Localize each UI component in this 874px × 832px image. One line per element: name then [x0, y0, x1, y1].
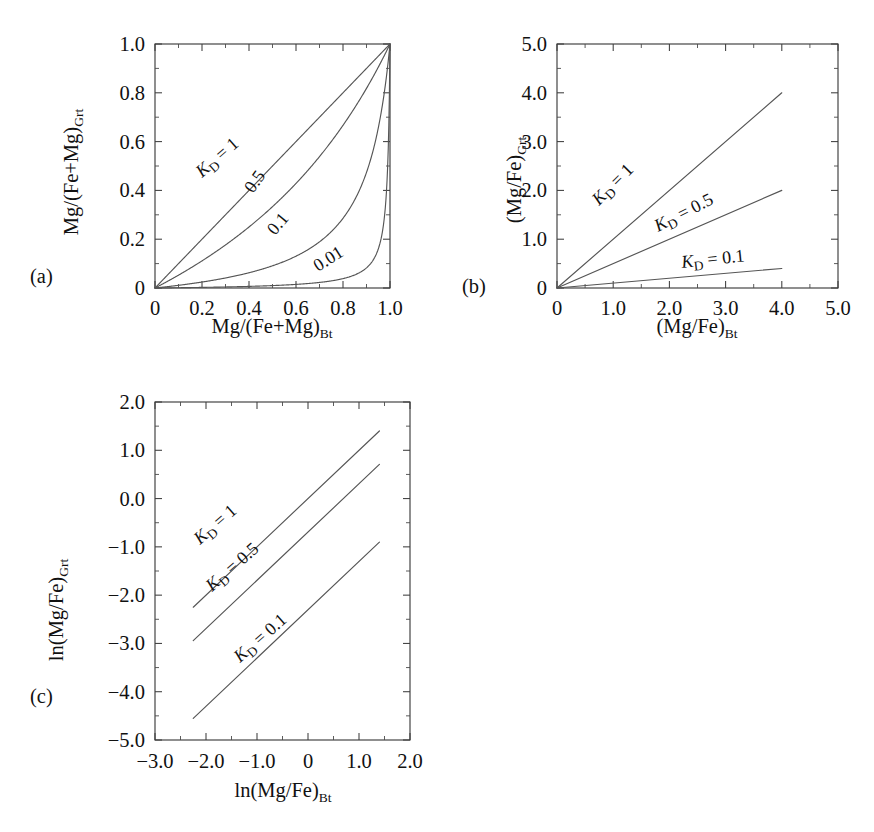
caption-strip — [0, 806, 874, 832]
y-tick-label: 0 — [135, 277, 145, 299]
line-kd-0_5 — [557, 190, 782, 288]
y-tick-label: 0.2 — [119, 228, 145, 250]
curve-kd-1 — [155, 44, 390, 288]
x-tick-label: 0 — [552, 297, 562, 319]
y-tick-label: −1.0 — [108, 536, 145, 558]
x-tick-label: −1.0 — [238, 750, 275, 772]
panel-b-letter: (b) — [462, 275, 486, 298]
panel-a-curves — [155, 44, 390, 288]
y-tick-label: 5.0 — [521, 33, 547, 55]
x-tick-label: 1.0 — [346, 750, 372, 772]
panel-c-x-axis-title: ln(Mg/Fe)Bt — [234, 779, 331, 805]
x-tick-label: 2.0 — [397, 750, 423, 772]
x-tick-label: 5.0 — [825, 297, 851, 319]
y-tick-label: −2.0 — [108, 584, 145, 606]
y-tick-label: −5.0 — [108, 729, 145, 751]
x-tick-label: 0 — [150, 297, 160, 319]
curve-label-0_1: KD = 0.1 — [229, 609, 293, 669]
panel-a-y-axis-title: Mg/(Fe+Mg)Grt — [60, 109, 86, 236]
curve-label-1: KD = 1 — [587, 159, 639, 211]
panel-c-curve-labels: KD = 1KD = 0.5KD = 0.1 — [189, 500, 293, 669]
curve-label-1: KD = 1 — [189, 500, 243, 551]
y-tick-label: 0.4 — [119, 179, 145, 201]
panel-a-letter: (a) — [30, 265, 53, 288]
curve-label-0_5: 0.5 — [240, 166, 269, 196]
y-tick-label: −4.0 — [108, 681, 145, 703]
curve-label-0_5: KD = 0.5 — [650, 189, 718, 239]
panel-b-curve-labels: KD = 1KD = 0.5KD = 0.1 — [587, 159, 746, 275]
panel-c: −3.0−2.0−1.001.02.0−5.0−4.0−3.0−2.0−1.00… — [30, 391, 423, 805]
three-panel-kd-figure: 00.20.40.60.81.000.20.40.60.81.0 Mg/(Fe+… — [0, 0, 874, 832]
curve-label-0_01: 0.01 — [310, 242, 347, 276]
x-tick-label: 1.0 — [377, 297, 403, 319]
y-tick-label: 0.6 — [119, 131, 145, 153]
y-tick-label: 1.0 — [119, 33, 145, 55]
curve-label-1: KD = 1 — [191, 133, 245, 184]
curve-label-0_1: 0.1 — [263, 208, 293, 238]
y-tick-label: 0.0 — [119, 488, 145, 510]
x-tick-label: 1.0 — [600, 297, 626, 319]
y-tick-label: 4.0 — [521, 82, 547, 104]
x-tick-label: 0 — [303, 750, 313, 772]
x-tick-label: 4.0 — [769, 297, 795, 319]
figure-container: 00.20.40.60.81.000.20.40.60.81.0 Mg/(Fe+… — [0, 0, 874, 832]
panel-c-axes — [155, 402, 410, 740]
panel-c-letter: (c) — [30, 685, 53, 708]
y-tick-label: 1.0 — [119, 439, 145, 461]
y-tick-label: 1.0 — [521, 228, 547, 250]
x-tick-label: −2.0 — [187, 750, 224, 772]
x-tick-label: −3.0 — [136, 750, 173, 772]
plot-frame — [155, 402, 410, 740]
curve-label-0_5: KD = 0.5 — [201, 538, 265, 598]
y-tick-label: 2.0 — [119, 391, 145, 413]
panel-c-y-axis-title: ln(Mg/Fe)Grt — [45, 559, 71, 662]
line-kd-0_5 — [193, 464, 379, 640]
y-tick-label: −3.0 — [108, 632, 145, 654]
panel-a-curve-labels: KD = 10.50.10.01 — [191, 133, 347, 275]
panel-a: 00.20.40.60.81.000.20.40.60.81.0 Mg/(Fe+… — [30, 33, 403, 341]
panel-a-x-axis-title: Mg/(Fe+Mg)Bt — [211, 315, 332, 341]
y-tick-label: 2.0 — [521, 179, 547, 201]
panel-b: 01.02.03.04.05.001.02.03.04.05.0 (Mg/Fe)… — [462, 33, 851, 341]
y-tick-label: 0.8 — [119, 82, 145, 104]
x-tick-label: 0.8 — [330, 297, 356, 319]
y-tick-label: 0 — [537, 277, 547, 299]
curve-label-0_1: KD = 0.1 — [679, 245, 745, 275]
